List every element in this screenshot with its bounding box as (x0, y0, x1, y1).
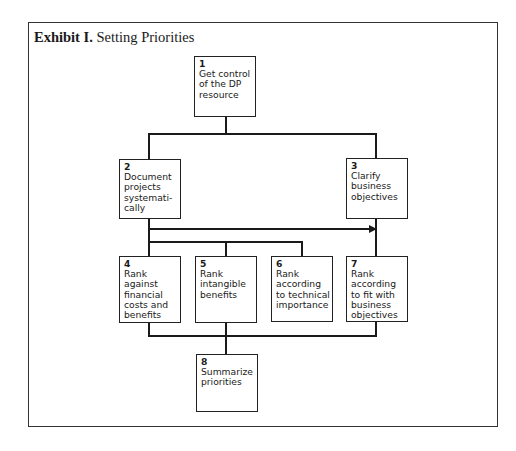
step-text: Clarify business objectives (351, 171, 405, 202)
step-box-8: 8 Summarize priorities (196, 354, 258, 412)
step-text: Get control of the DP resource (199, 69, 253, 100)
step-text: Rank according to fit with business obje… (351, 269, 405, 320)
step-text: Rank according to technical importance (276, 269, 330, 310)
connector-3-to-7 (375, 218, 377, 256)
connector-merge-bottom (148, 335, 377, 337)
connector-branch-top (148, 133, 377, 135)
exhibit-title: Exhibit I. Setting Priorities (34, 29, 194, 46)
step-box-4: 4 Rank against financial costs and benef… (119, 256, 181, 323)
step-text: Summarize priorities (201, 367, 255, 387)
step-text: Rank against financial costs and benefit… (124, 269, 178, 320)
connector-to-3 (375, 133, 377, 159)
exhibit-frame (28, 22, 498, 427)
connector-2-trunk (148, 218, 150, 256)
connector-to-5 (225, 241, 227, 256)
step-box-5: 5 Rank intangible benefits (195, 256, 257, 323)
exhibit-title-text: Setting Priorities (96, 29, 194, 45)
step-box-2: 2 Document projects systemati- cally (119, 159, 181, 219)
connector-2-to-3-arrow-line (148, 228, 369, 230)
step-box-7: 7 Rank according to fit with business ob… (346, 256, 408, 322)
step-text: Rank intangible benefits (200, 269, 254, 300)
step-text: Document projects systemati- cally (124, 172, 178, 213)
step-box-1: 1 Get control of the DP resource (194, 56, 256, 117)
exhibit-label: Exhibit I. (34, 29, 93, 45)
connector-to-8 (225, 322, 227, 354)
step-box-6: 6 Rank according to technical importance (271, 256, 333, 322)
connector-to-6 (301, 241, 303, 256)
step-box-3: 3 Clarify business objectives (346, 158, 408, 219)
connector-to-2 (148, 133, 150, 159)
